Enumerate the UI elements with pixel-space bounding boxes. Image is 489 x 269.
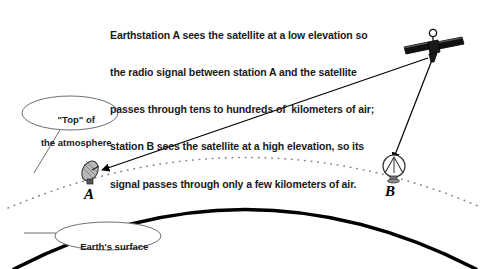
caption-line-4: station B sees the satellite at a high e… [110, 140, 400, 152]
surface-callout-label: Earth's surface [60, 229, 158, 264]
station-a-label: A [84, 186, 94, 203]
caption-line-2: the radio signal between station A and t… [110, 66, 400, 78]
diagram-canvas: Earthstation A sees the satellite at a l… [0, 0, 489, 269]
satellite-icon [404, 29, 464, 62]
caption-line-1: Earthstation A sees the satellite at a l… [110, 29, 400, 41]
station-b-label: B [385, 183, 395, 200]
caption-line-5: signal passes through only a few kilomet… [110, 178, 400, 190]
atmosphere-callout-line-2: the atmosphere [41, 137, 112, 148]
diagram-caption: Earthstation A sees the satellite at a l… [110, 4, 400, 215]
surface-callout-line-1: Earth's surface [80, 241, 148, 252]
satellite-dish-side-icon [78, 158, 101, 184]
atmosphere-callout-line-1: "Top" of [58, 114, 95, 125]
atmosphere-callout-label: "Top" of the atmosphere [26, 102, 116, 160]
caption-line-3: passes through tens to hundreds of kilom… [110, 103, 400, 115]
